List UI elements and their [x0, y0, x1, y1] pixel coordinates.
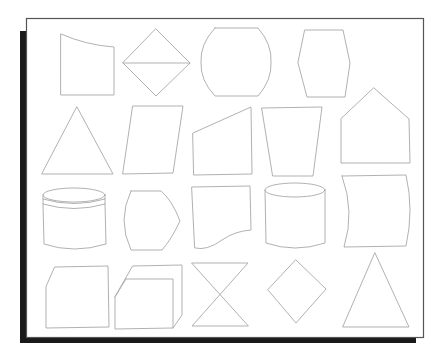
- curved-top-quadrilateral: [61, 34, 114, 95]
- row-2: [42, 88, 410, 176]
- worksheet-frame: [27, 19, 424, 338]
- tall-triangle: [343, 253, 409, 327]
- row-4: [46, 253, 409, 329]
- row-1: [61, 28, 350, 97]
- hexagon: [298, 30, 350, 97]
- hourglass: [192, 263, 248, 326]
- wave-bottom-rectangle: [192, 186, 251, 249]
- barrel-shape: [201, 28, 271, 96]
- concave-sides-rectangle: [342, 175, 410, 247]
- curved-hexagon: [124, 191, 180, 250]
- chamfered-rectangle: [46, 266, 109, 328]
- inverted-trapezoid: [262, 107, 322, 176]
- parallelogram: [123, 106, 183, 174]
- box-3d: [115, 265, 182, 329]
- triangle: [42, 107, 113, 174]
- slanted-top-trapezoid: [193, 107, 252, 175]
- shapes-worksheet: [0, 0, 445, 364]
- rhombus: [268, 260, 326, 323]
- diamond-with-diagonal: [123, 29, 190, 96]
- row-3: [43, 175, 410, 250]
- pentagon-house: [341, 88, 410, 163]
- banded-cylinder: [43, 188, 106, 249]
- cylinder: [265, 183, 325, 248]
